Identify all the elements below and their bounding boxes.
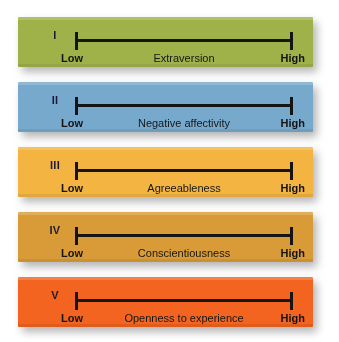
scale-low-endcap <box>75 97 78 115</box>
anchor-high-label: High <box>281 180 305 196</box>
big-five-traits-figure: I Low Extraversion High II Low Negative … <box>0 0 339 342</box>
scale-axis-line <box>75 104 293 107</box>
anchor-high-label: High <box>281 115 305 131</box>
trait-labels-4: Low Conscientiousness High <box>75 245 293 261</box>
trait-name-label: Extraversion <box>75 50 293 66</box>
scale-axis-line <box>75 299 293 302</box>
trait-numeral-1: I <box>38 30 72 41</box>
scale-high-endcap <box>290 292 293 310</box>
trait-numeral-2: II <box>38 95 72 106</box>
trait-numeral-5: V <box>38 290 72 301</box>
trait-name-label: Openness to experience <box>75 310 293 326</box>
trait-labels-3: Low Agreeableness High <box>75 180 293 196</box>
trait-name-label: Conscientiousness <box>75 245 293 261</box>
trait-numeral-4: IV <box>38 225 72 236</box>
scale-high-endcap <box>290 162 293 180</box>
trait-band-2: II Low Negative affectivity High <box>18 82 313 132</box>
trait-scale-5 <box>75 292 293 310</box>
trait-scale-3 <box>75 162 293 180</box>
trait-labels-2: Low Negative affectivity High <box>75 115 293 131</box>
trait-band-4: IV Low Conscientiousness High <box>18 212 313 262</box>
scale-low-endcap <box>75 292 78 310</box>
trait-band-1: I Low Extraversion High <box>18 17 313 67</box>
trait-labels-1: Low Extraversion High <box>75 50 293 66</box>
trait-labels-5: Low Openness to experience High <box>75 310 293 326</box>
scale-axis-line <box>75 169 293 172</box>
scale-axis-line <box>75 39 293 42</box>
scale-high-endcap <box>290 97 293 115</box>
trait-numeral-3: III <box>38 160 72 171</box>
trait-band-3: III Low Agreeableness High <box>18 147 313 197</box>
anchor-high-label: High <box>281 50 305 66</box>
trait-name-label: Agreeableness <box>75 180 293 196</box>
trait-scale-1 <box>75 32 293 50</box>
trait-scale-2 <box>75 97 293 115</box>
trait-name-label: Negative affectivity <box>75 115 293 131</box>
scale-high-endcap <box>290 32 293 50</box>
scale-high-endcap <box>290 227 293 245</box>
scale-low-endcap <box>75 32 78 50</box>
scale-low-endcap <box>75 162 78 180</box>
scale-low-endcap <box>75 227 78 245</box>
scale-axis-line <box>75 234 293 237</box>
anchor-high-label: High <box>281 245 305 261</box>
trait-band-5: V Low Openness to experience High <box>18 277 313 327</box>
anchor-high-label: High <box>281 310 305 326</box>
trait-scale-4 <box>75 227 293 245</box>
